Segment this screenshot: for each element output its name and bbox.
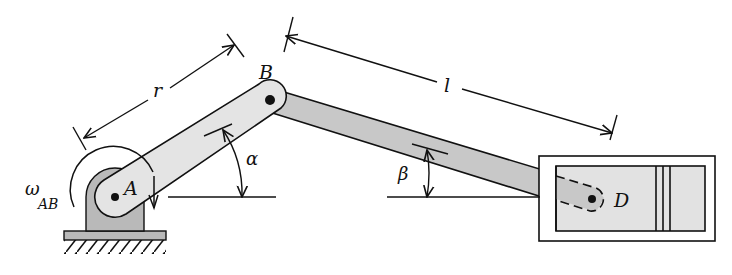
pin-d bbox=[588, 195, 596, 203]
label-d: D bbox=[613, 189, 629, 211]
label-b: B bbox=[258, 61, 273, 83]
pin-a bbox=[111, 193, 119, 201]
label-beta: β bbox=[397, 163, 408, 184]
label-alpha: α bbox=[246, 148, 258, 169]
label-l: l bbox=[444, 74, 450, 96]
slider-crank-diagram: A B D r l α β ω AB bbox=[0, 0, 732, 275]
label-a: A bbox=[122, 177, 138, 199]
label-r: r bbox=[153, 79, 164, 101]
pin-b bbox=[265, 95, 275, 105]
label-omega-sub: AB bbox=[36, 196, 58, 212]
